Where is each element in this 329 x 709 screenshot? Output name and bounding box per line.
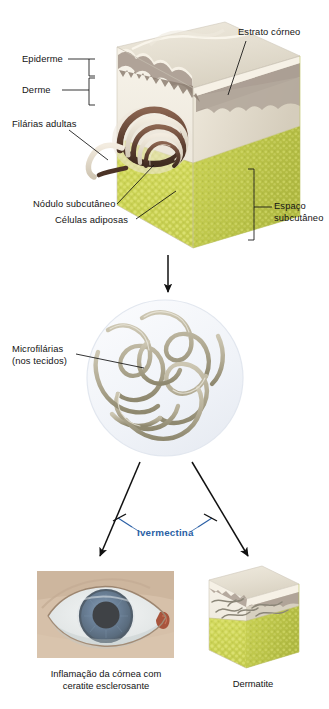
adult-filaria-nodule xyxy=(88,106,192,177)
dermatitis-skin-illustration xyxy=(209,566,299,668)
label-espaco-subcutaneo-line1: Espaço xyxy=(274,200,306,211)
caption-dermatite: Dermatite xyxy=(213,678,293,690)
label-microfilarias-line2: (nos tecidos) xyxy=(12,355,67,366)
eye-illustration xyxy=(37,571,174,658)
label-nodulo-subcutaneo: Nódulo subcutâneo xyxy=(33,198,116,209)
label-epiderme: Epiderme xyxy=(22,53,63,64)
arrow-to-eye xyxy=(100,462,140,556)
ivermectina-block-bars xyxy=(113,514,217,521)
label-ivermectina: Ivermectina xyxy=(137,527,194,538)
label-espaco-subcutaneo-line2: subcutâneo xyxy=(274,212,323,223)
label-microfilarias-line1: Microfilárias xyxy=(12,343,63,354)
diagram-canvas: Epiderme Derme Filárias adultas Estrato … xyxy=(0,0,329,709)
caption-eye-line1: Inflamação da córnea com xyxy=(22,668,190,680)
label-filarias-adultas: Filárias adultas xyxy=(12,118,77,129)
label-celulas-adiposas: Células adiposas xyxy=(55,214,128,225)
arrow-to-dermatitis xyxy=(192,462,248,556)
caption-eye-line2: ceratite esclerosante xyxy=(22,680,190,692)
label-estrato-corneo: Estrato córneo xyxy=(238,26,300,37)
microfilariae-illustration xyxy=(87,300,243,456)
label-derme: Derme xyxy=(22,84,51,95)
